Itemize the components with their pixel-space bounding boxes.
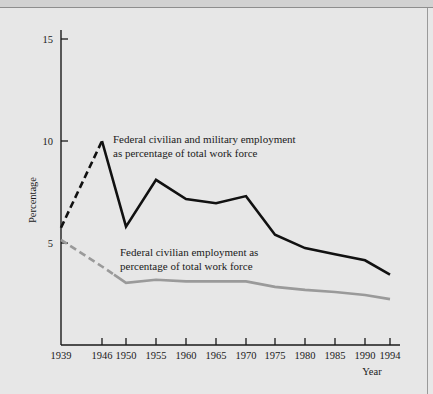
x-tick-label: 1965 — [206, 350, 227, 361]
y-axis-tick-labels: 51015 — [43, 34, 54, 249]
x-axis-title: Year — [362, 366, 382, 377]
y-tick-label: 5 — [48, 238, 53, 249]
annotation-civilian-military-line1: Federal civilian and military employment — [113, 133, 296, 145]
x-axis-ticks — [102, 338, 390, 345]
chart-figure: 51015 1939194619501955196019651970197519… — [0, 0, 433, 394]
x-tick-label: 1955 — [146, 350, 167, 361]
x-tick-label: 1939 — [51, 350, 72, 361]
annotation-civilian-line2: percentage of total work force — [120, 260, 253, 272]
annotation-civilian-military-line2: as percentage of total work force — [113, 147, 258, 159]
x-tick-label: 1980 — [295, 350, 316, 361]
series-total-employment-dashed-segment — [61, 240, 114, 275]
x-tick-label: 1985 — [325, 350, 346, 361]
y-axis-title: Percentage — [27, 177, 38, 223]
x-tick-label: 1990 — [355, 350, 376, 361]
x-tick-label: 1970 — [236, 350, 257, 361]
annotation-civilian-line1: Federal civilian employment as — [120, 246, 258, 258]
series-civilian-military-dashed-segment — [61, 141, 102, 228]
x-tick-label: 1946 — [92, 350, 113, 361]
x-axis-tick-labels: 1939194619501955196019651970197519801985… — [51, 350, 402, 361]
x-tick-label: 1994 — [380, 350, 402, 361]
x-tick-label: 1960 — [176, 350, 197, 361]
series-total-employment-line — [114, 275, 390, 300]
y-tick-label: 10 — [43, 136, 54, 147]
x-tick-label: 1975 — [265, 350, 286, 361]
x-tick-label: 1950 — [116, 350, 137, 361]
y-tick-label: 15 — [43, 34, 54, 45]
line-chart-svg: 51015 1939194619501955196019651970197519… — [0, 0, 433, 394]
